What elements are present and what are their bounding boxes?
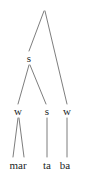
tree-leaf-label: ba [60, 160, 70, 171]
tree-edge [18, 65, 29, 104]
tree-leaf-label: mar [9, 160, 26, 171]
tree-node-label: w [14, 106, 22, 117]
tree-node-label: s [45, 106, 49, 117]
tree-edge [13, 118, 18, 157]
metrical-tree-figure: swswmartaba [0, 0, 87, 174]
tree-edges-layer [0, 0, 87, 174]
tree-node-label: w [63, 106, 71, 117]
tree-edge [45, 11, 67, 104]
tree-node-label: s [27, 53, 31, 64]
tree-leaf-label: ta [43, 160, 51, 171]
tree-edge [19, 118, 24, 157]
tree-edge [30, 65, 46, 104]
tree-edge [29, 11, 44, 51]
